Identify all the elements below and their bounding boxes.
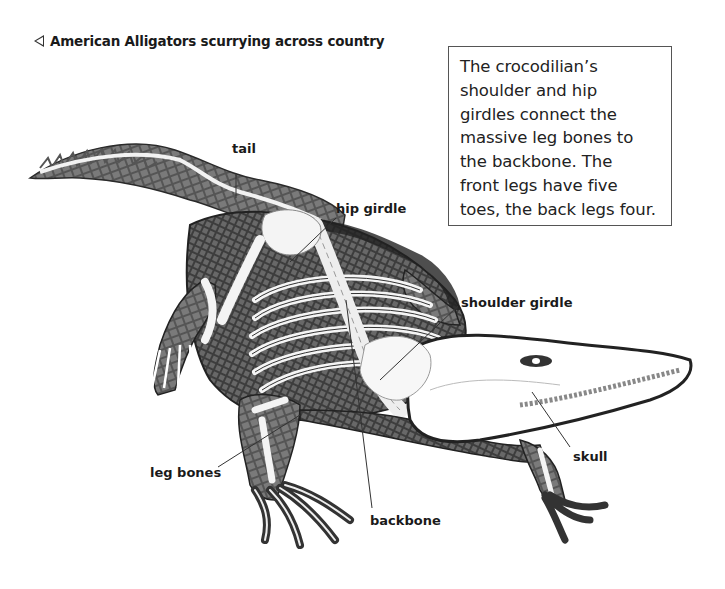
label-backbone: backbone (370, 513, 441, 528)
label-hip-girdle: hip girdle (336, 201, 406, 216)
label-leg-bones: leg bones (150, 465, 221, 480)
label-skull: skull (573, 449, 608, 464)
skull-illustration (408, 335, 691, 442)
label-shoulder-girdle: shoulder girdle (461, 295, 572, 310)
alligator-skeleton-illustration (0, 0, 725, 589)
hind-leg-upper (152, 280, 216, 395)
label-tail: tail (232, 141, 256, 156)
hip-girdle-illustration (262, 210, 321, 255)
